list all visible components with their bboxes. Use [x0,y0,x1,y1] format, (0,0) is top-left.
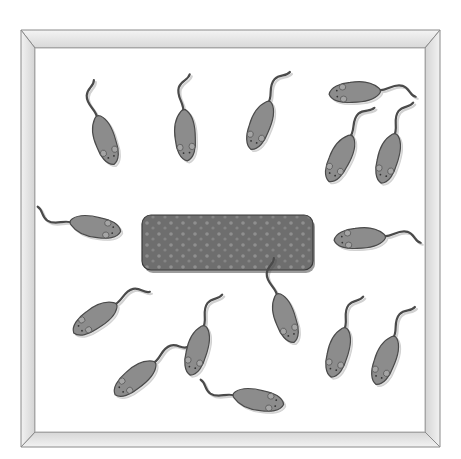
enclosure-illustration [0,0,461,459]
food-bar [142,215,315,273]
